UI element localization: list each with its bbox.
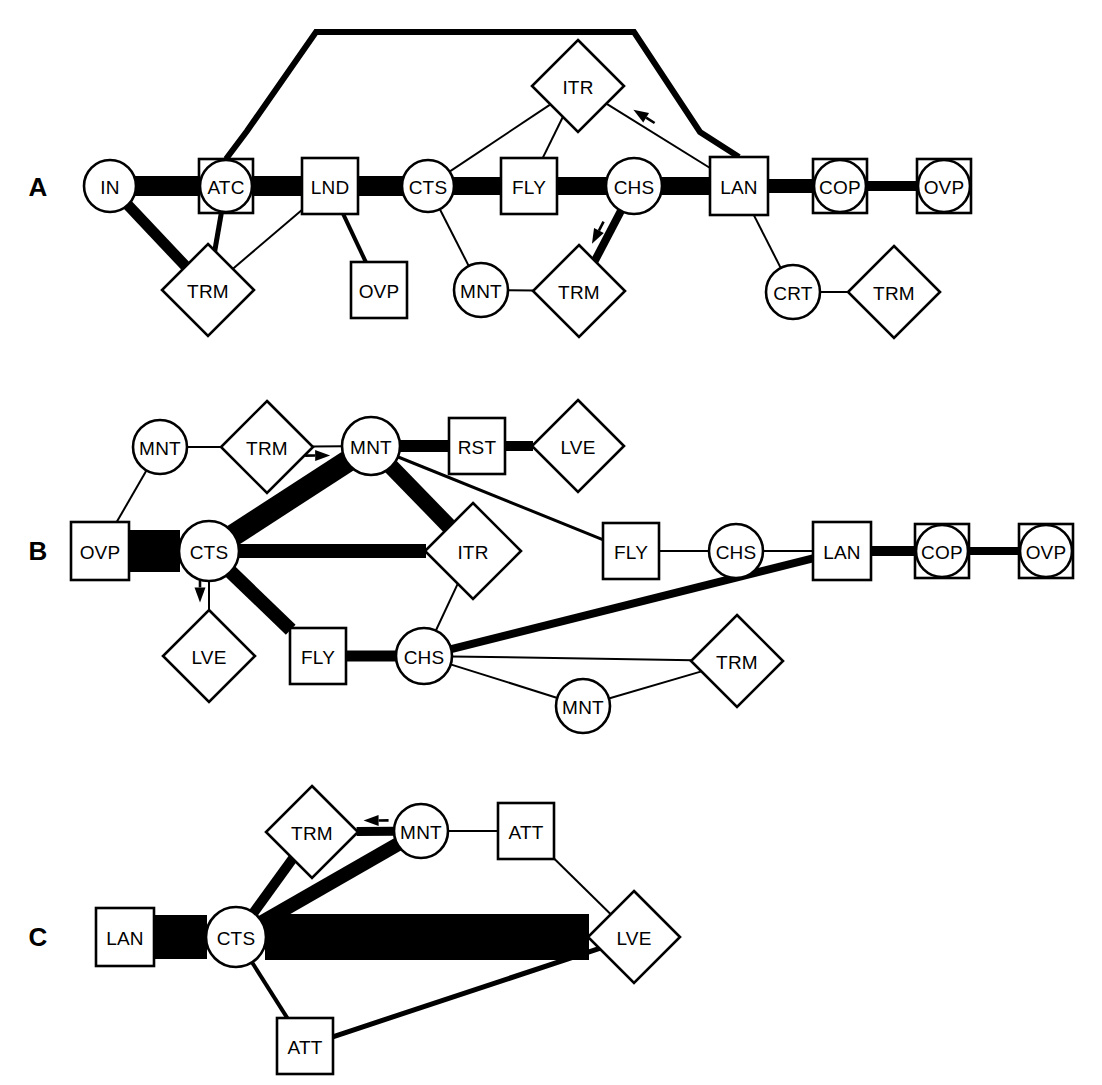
edge-cts-to-att [252, 962, 288, 1019]
node-label: LAN [720, 177, 758, 198]
node-label: OVP [924, 177, 965, 198]
node-mnt[interactable]: MNT [342, 417, 400, 475]
node-ovp[interactable]: OVP [917, 159, 971, 213]
node-trm[interactable]: TRM [691, 615, 783, 707]
edge-cts-to-fly [230, 571, 291, 630]
node-label: ITR [457, 542, 488, 563]
panel-labels-layer: ABC [29, 172, 48, 952]
node-att[interactable]: ATT [277, 1018, 333, 1074]
arrow-shaft [646, 118, 654, 123]
node-ovp[interactable]: OVP [351, 262, 407, 318]
node-fly[interactable]: FLY [501, 158, 557, 214]
node-chs[interactable]: CHS [606, 158, 662, 214]
edge-mnt-to-ovp [116, 470, 147, 523]
node-cts[interactable]: CTS [206, 907, 266, 967]
node-label: LVE [616, 928, 651, 949]
figure-canvas: INATCLNDCTSFLYCHSLANCOPOVPITRTRMOVPMNTTR… [0, 0, 1102, 1085]
node-trm[interactable]: TRM [221, 401, 313, 493]
edge-chs-to-mnt [450, 664, 558, 698]
node-label: OVP [359, 281, 400, 302]
node-label: CTS [409, 177, 448, 198]
node-label: IN [100, 177, 119, 198]
node-cop[interactable]: COP [813, 159, 867, 213]
arrow-head-icon [633, 110, 649, 123]
edge-atc-to-trm [215, 212, 222, 252]
node-fly[interactable]: FLY [290, 628, 346, 684]
node-chs[interactable]: CHS [396, 628, 452, 684]
node-itr[interactable]: ITR [532, 40, 624, 132]
node-cop[interactable]: COP [915, 524, 969, 578]
node-label: ATC [207, 177, 244, 198]
node-label: TRM [558, 282, 600, 303]
node-label: ITR [562, 77, 593, 98]
node-lnd[interactable]: LND [302, 158, 358, 214]
node-mnt[interactable]: MNT [133, 420, 187, 474]
node-label: TRM [187, 281, 229, 302]
node-att[interactable]: ATT [498, 803, 554, 859]
edge-mnt-to-trm [608, 671, 702, 699]
edge-lnd-to-trm [232, 209, 303, 269]
node-label: CHS [404, 647, 445, 668]
node-label: TRM [291, 823, 333, 844]
node-chs[interactable]: CHS [709, 524, 763, 578]
node-mnt[interactable]: MNT [454, 263, 508, 317]
node-label: TRM [873, 283, 915, 304]
node-ovp[interactable]: OVP [1019, 524, 1073, 578]
node-mnt[interactable]: MNT [394, 804, 448, 858]
node-trm[interactable]: TRM [848, 246, 940, 338]
node-label: CHS [716, 542, 757, 563]
network-diagram-svg: INATCLNDCTSFLYCHSLANCOPOVPITRTRMOVPMNTTR… [0, 0, 1102, 1085]
node-atc[interactable]: ATC [199, 159, 253, 213]
node-lve[interactable]: LVE [532, 400, 624, 492]
node-mnt[interactable]: MNT [556, 679, 610, 733]
edge-cts-to-mnt [439, 208, 469, 267]
node-label: MNT [460, 281, 502, 302]
node-label: ATT [508, 822, 543, 843]
node-cts[interactable]: CTS [402, 160, 454, 212]
arrow-head-icon [315, 450, 330, 461]
node-rst[interactable]: RST [449, 418, 505, 474]
node-label: CHS [614, 177, 655, 198]
node-ovp[interactable]: OVP [71, 522, 129, 580]
node-label: MNT [139, 438, 181, 459]
node-label: TRM [716, 652, 758, 673]
panel-label-a: A [29, 172, 48, 202]
edge-att-to-lve [553, 858, 611, 915]
node-trm[interactable]: TRM [533, 245, 625, 337]
edge-chs-to-itr [435, 583, 458, 632]
edge-fly-to-itr [542, 116, 563, 159]
node-label: LND [311, 177, 350, 198]
edge-att-to-lve [332, 948, 600, 1037]
edge-chs-to-trm [451, 656, 693, 660]
node-crt[interactable]: CRT [766, 265, 820, 319]
edge-atc-to-lan-arc [226, 32, 739, 159]
node-label: MNT [400, 822, 442, 843]
node-label: MNT [350, 437, 392, 458]
node-label: COP [819, 177, 861, 198]
node-lve[interactable]: LVE [163, 610, 255, 702]
node-label: MNT [562, 697, 604, 718]
node-label: COP [921, 542, 963, 563]
node-trm[interactable]: TRM [266, 786, 358, 878]
node-cts[interactable]: CTS [179, 521, 239, 581]
node-label: LVE [191, 647, 226, 668]
node-label: LAN [106, 928, 144, 949]
node-label: FLY [301, 647, 335, 668]
node-lan[interactable]: LAN [813, 522, 871, 580]
node-fly[interactable]: FLY [603, 523, 659, 579]
node-lan[interactable]: LAN [710, 157, 768, 215]
node-in[interactable]: IN [84, 160, 136, 212]
node-label: LAN [823, 542, 861, 563]
arrow-head-icon [195, 587, 206, 602]
node-label: CTS [217, 928, 256, 949]
node-label: OVP [1026, 542, 1067, 563]
edge-lan-to-itr [606, 103, 711, 168]
arrow-head-icon [364, 815, 379, 826]
node-label: FLY [512, 177, 546, 198]
node-lan[interactable]: LAN [96, 908, 154, 966]
node-label: TRM [246, 438, 288, 459]
node-label: ATT [287, 1037, 322, 1058]
node-label: LVE [560, 437, 595, 458]
panel-label-c: C [29, 922, 48, 952]
node-label: CTS [190, 542, 229, 563]
